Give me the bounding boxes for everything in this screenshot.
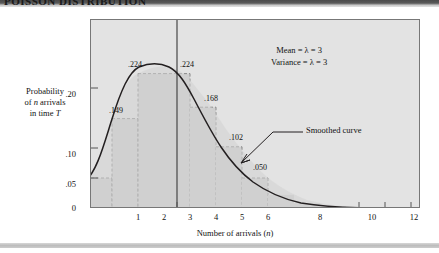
x-tick-label-8: 8 xyxy=(312,212,328,222)
y-tick-label-020: .20 xyxy=(52,89,76,99)
x-tick-label-12: 12 xyxy=(406,212,422,222)
x-tick-label-5: 5 xyxy=(234,212,250,222)
x-tick-label-1: 1 xyxy=(130,212,146,222)
y-axis-label-italic-t: T xyxy=(56,108,61,118)
bar-label-050: .050 xyxy=(253,163,267,172)
bar-label-224-n2: .224 xyxy=(128,60,142,69)
bar-label-149: .149 xyxy=(109,106,123,115)
smoothed-curve-label: Smoothed curve xyxy=(306,125,361,135)
smoothed-curve-callout xyxy=(241,132,303,163)
x-tick-label-4: 4 xyxy=(208,212,224,222)
figure-poisson-distribution: POISSON DISTRIBUTION Probability of n ar… xyxy=(0,0,439,253)
x-tick-label-10: 10 xyxy=(364,212,380,222)
y-tick-label-0: 0 xyxy=(52,203,76,213)
page-header-band: POISSON DISTRIBUTION xyxy=(0,0,439,7)
page-header-title: POISSON DISTRIBUTION xyxy=(4,0,146,7)
page-footer-rule xyxy=(0,243,439,248)
y-axis-label-italic-n: n xyxy=(34,97,38,107)
stats-variance: Variance = λ = 3 xyxy=(271,57,327,67)
stats-annotation: Mean = λ = 3 Variance = λ = 3 xyxy=(271,44,327,68)
x-axis-label-italic-n: n xyxy=(266,228,270,238)
curve-area-fill xyxy=(91,67,399,208)
stats-mean: Mean = λ = 3 xyxy=(276,45,322,55)
plot-area: .149 .224 .224 .168 .102 .050 Mean = λ =… xyxy=(90,19,420,208)
bar-label-102: .102 xyxy=(229,133,243,142)
x-tick-label-2: 2 xyxy=(156,212,172,222)
y-tick-label-010: .10 xyxy=(52,149,76,159)
y-tick-label-005: .05 xyxy=(52,179,76,189)
x-tick-label-6: 6 xyxy=(260,212,276,222)
x-axis-label: Number of arrivals (n) xyxy=(150,228,320,238)
bar-label-168: .168 xyxy=(204,94,218,103)
x-tick-label-3: 3 xyxy=(182,212,198,222)
bar-label-224-n3: .224 xyxy=(180,60,194,69)
plot-svg xyxy=(91,20,419,207)
